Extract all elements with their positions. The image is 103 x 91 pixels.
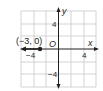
x-axis-label: x [87, 38, 93, 48]
coordinate-plane: (−3, 0) O x y −4 4 4 −4 [0, 0, 103, 91]
x-tick-4: 4 [82, 51, 87, 60]
x-tick-neg4: −4 [26, 51, 36, 60]
y-tick-neg4: −4 [48, 70, 58, 79]
closed-point [38, 47, 42, 51]
y-tick-4: 4 [52, 20, 57, 29]
origin-label: O [49, 39, 56, 49]
point-label: (−3, 0) [16, 36, 42, 46]
y-axis-label: y [61, 6, 67, 16]
y-axis-down-arrow-icon [57, 84, 61, 89]
x-axis-arrow-icon [94, 47, 99, 51]
y-axis-up-arrow-icon [57, 7, 61, 12]
